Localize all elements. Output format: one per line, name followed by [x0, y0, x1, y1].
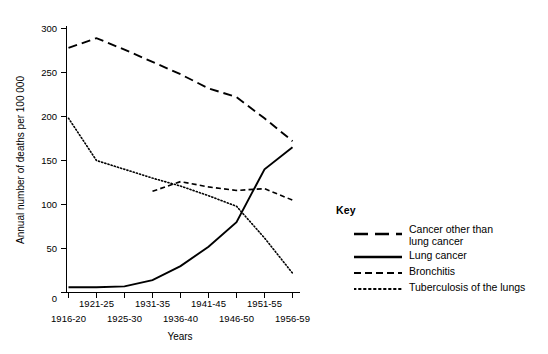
series-lung-cancer [69, 147, 293, 287]
y-tick-label: 300 [41, 23, 57, 34]
y-tick-marks [61, 29, 67, 293]
x-axis-title: Years [167, 331, 192, 342]
x-tick-label: 1936-40 [163, 313, 198, 324]
legend-swatch-solid-icon [354, 250, 402, 262]
series-tuberculosis-of-the-lungs [69, 118, 293, 273]
legend: Key Cancer other than lung cancer Lung c… [336, 204, 544, 298]
y-tick-label: 0 [52, 293, 57, 304]
x-tick-label: 1916-20 [51, 313, 86, 324]
legend-label: Tuberculosis of the lungs [409, 282, 525, 294]
legend-item-bronchitis: Bronchitis [336, 266, 544, 279]
chart-figure: 300 250 200 150 100 50 0 1921-25 1931-35… [0, 0, 548, 354]
series-cancer-other-than-lung-cancer [69, 38, 293, 141]
x-tick-label: 1946-50 [219, 313, 254, 324]
x-tick-label: 1925-30 [107, 313, 142, 324]
x-tick-label: 1931-35 [135, 298, 170, 309]
legend-label: Lung cancer [409, 250, 467, 262]
x-tick-label: 1956-59 [275, 313, 310, 324]
x-tick-label: 1951-55 [247, 298, 282, 309]
legend-item-tuberculosis-of-the-lungs: Tuberculosis of the lungs [336, 282, 544, 295]
legend-title: Key [336, 204, 544, 216]
x-tick-label: 1921-25 [79, 298, 114, 309]
legend-label: Bronchitis [409, 266, 455, 278]
legend-swatch-long-dash-icon [354, 231, 402, 243]
caption-fragment [2, 346, 262, 353]
y-tick-label: 250 [41, 67, 57, 78]
legend-swatch-dotted-icon [354, 282, 402, 294]
legend-label: Cancer other than lung cancer [409, 224, 493, 247]
x-tick-labels-upper: 1921-25 1931-35 1941-45 1951-55 [79, 298, 282, 309]
y-tick-label: 200 [41, 111, 57, 122]
y-axis-title: Annual number of deaths per 100 000 [15, 76, 26, 244]
y-tick-labels: 300 250 200 150 100 50 0 [41, 23, 57, 304]
y-tick-label: 150 [41, 155, 57, 166]
y-tick-label: 50 [46, 243, 57, 254]
x-tick-label: 1941-45 [191, 298, 226, 309]
line-chart: 300 250 200 150 100 50 0 1921-25 1931-35… [0, 0, 330, 354]
legend-item-cancer-other-than-lung-cancer: Cancer other than lung cancer [336, 225, 544, 247]
legend-item-lung-cancer: Lung cancer [336, 250, 544, 263]
legend-swatch-dash-icon [354, 266, 402, 278]
x-tick-labels-lower: 1916-20 1925-30 1936-40 1946-50 1956-59 [51, 313, 310, 324]
y-tick-label: 100 [41, 199, 57, 210]
